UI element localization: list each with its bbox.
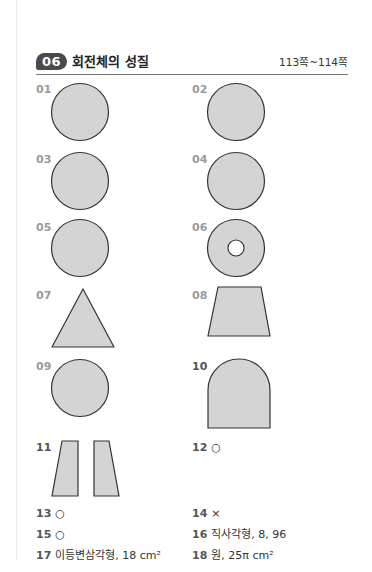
circle-figure xyxy=(50,82,110,142)
circle-figure xyxy=(206,82,266,142)
answer-text: ○ xyxy=(55,528,65,541)
item-number: 12 xyxy=(192,441,207,454)
item-number: 16 xyxy=(192,528,207,541)
trapezoid-figure xyxy=(206,286,272,338)
two-trapezoids-figure xyxy=(50,440,122,498)
page-range: 113쪽~114쪽 xyxy=(279,55,348,69)
section-title: 회전체의 성질 xyxy=(72,53,149,71)
answer-text: ○ xyxy=(211,441,221,454)
answer-item: 14× xyxy=(192,507,221,521)
answer-text: × xyxy=(211,507,220,520)
answer-item: 12○ xyxy=(192,441,221,455)
item-number: 13 xyxy=(36,507,51,520)
section-number-badge: 06 xyxy=(36,53,67,70)
page-edge xyxy=(16,0,17,560)
annulus-figure xyxy=(206,218,266,278)
answer-item: 18원, 25π cm² xyxy=(192,549,274,563)
answer-item: 17이등변삼각형, 18 cm² xyxy=(36,549,161,563)
item-number: 18 xyxy=(192,549,207,562)
circle-figure xyxy=(50,218,110,278)
item-number: 15 xyxy=(36,528,51,541)
answer-item: 16직사각형, 8, 96 xyxy=(192,528,286,542)
answer-item: 13○ xyxy=(36,507,65,521)
circle-figure xyxy=(50,151,110,211)
answer-item: 15○ xyxy=(36,528,65,542)
item-number: 14 xyxy=(192,507,207,520)
section-header: 06 회전체의 성질 113쪽~114쪽 xyxy=(36,52,348,75)
answer-text: 이등변삼각형, 18 cm² xyxy=(55,549,161,562)
rounded-top-rectangle-figure xyxy=(206,358,272,430)
item-number: 17 xyxy=(36,549,51,562)
circle-figure xyxy=(50,358,110,418)
answer-text: ○ xyxy=(55,507,65,520)
answer-text: 직사각형, 8, 96 xyxy=(211,528,286,541)
circle-figure xyxy=(206,151,266,211)
answer-text: 원, 25π cm² xyxy=(211,549,273,562)
triangle-figure xyxy=(50,287,116,349)
